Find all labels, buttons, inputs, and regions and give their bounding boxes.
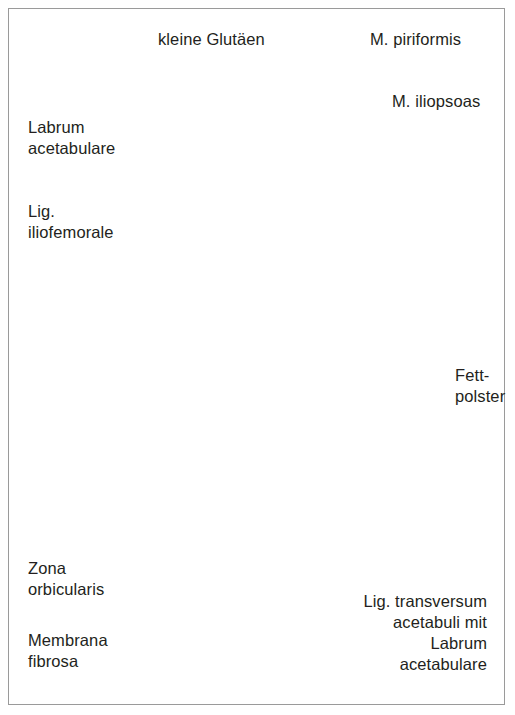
- label-lig-transversum-line1: Lig. transversum: [227, 592, 487, 612]
- label-membrana-fibrosa-line1: Membrana: [28, 631, 108, 651]
- label-lig-iliofemorale-line2: iliofemorale: [28, 223, 114, 243]
- label-zona-orbicularis-line2: orbicularis: [28, 580, 104, 600]
- label-fettpolster-line2: polster: [455, 387, 505, 407]
- anatomy-figure: kleine Glutäen M. piriformis M. iliopsoa…: [0, 0, 515, 715]
- label-lig-iliofemorale-line1: Lig.: [28, 202, 55, 222]
- label-labrum-acetabulare-line2: acetabulare: [28, 139, 115, 159]
- label-m-piriformis: M. piriformis: [370, 30, 461, 50]
- label-lig-transversum-line2: acetabuli mit: [227, 613, 487, 633]
- label-m-iliopsoas: M. iliopsoas: [392, 92, 480, 112]
- label-lig-transversum-line3: Labrum: [227, 634, 487, 654]
- label-zona-orbicularis-line1: Zona: [28, 559, 66, 579]
- label-membrana-fibrosa-line2: fibrosa: [28, 652, 78, 672]
- label-lig-transversum-line4: acetabulare: [227, 655, 487, 675]
- label-labrum-acetabulare-line1: Labrum: [28, 118, 85, 138]
- label-kleine-glutaeen: kleine Glutäen: [158, 30, 265, 50]
- label-fettpolster-line1: Fett-: [455, 366, 489, 386]
